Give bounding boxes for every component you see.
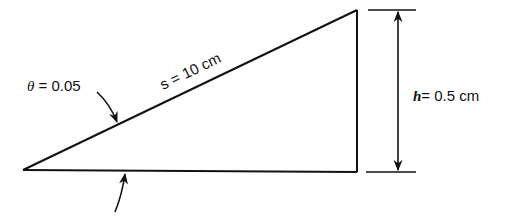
theta-label: θ = 0.05 bbox=[27, 77, 81, 94]
slope-length-label: s = 10 cm bbox=[157, 49, 223, 93]
triangle-diagram: θ = 0.05 s = 10 cm h= 0.5 cm bbox=[0, 0, 511, 222]
base-arrow-icon bbox=[115, 174, 125, 212]
height-value: = 0.5 cm bbox=[421, 87, 479, 104]
slope-value: = 10 cm bbox=[164, 49, 224, 89]
theta-value: = 0.05 bbox=[34, 77, 80, 94]
theta-arrow-icon bbox=[97, 92, 117, 122]
height-symbol: h bbox=[413, 88, 421, 104]
height-dimension bbox=[366, 10, 416, 172]
base-line bbox=[23, 170, 357, 172]
height-label: h= 0.5 cm bbox=[413, 87, 479, 104]
